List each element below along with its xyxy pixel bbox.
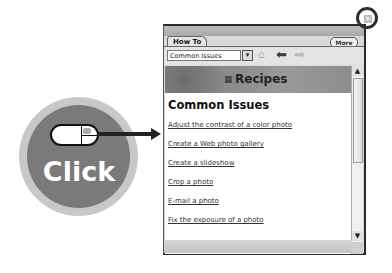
palette-status-bar (164, 240, 352, 253)
click-label: Click (36, 156, 122, 187)
mouse-left-button (83, 128, 91, 134)
banner-title: Recipes (235, 72, 287, 86)
content-area: ▦ Recipes Common Issues Adjust the contr… (165, 66, 352, 254)
list-item-link[interactable]: E-mail a photo (168, 197, 292, 216)
palette-toolbar: Common Issues ▾ ⌂ ⬅ ➡ (164, 47, 364, 65)
link-list: Adjust the contrast of a color photo Cre… (168, 121, 292, 235)
recipes-banner: ▦ Recipes (165, 66, 352, 93)
list-item-link[interactable]: Fix the exposure of a photo (168, 216, 292, 235)
mouse-button-divider (81, 135, 99, 136)
scroll-up-icon[interactable]: ▲ (352, 66, 363, 76)
scroll-thumb[interactable] (353, 78, 363, 163)
palette-title-bar[interactable] (164, 26, 364, 36)
list-item-link[interactable]: Adjust the contrast of a color photo (168, 121, 292, 140)
close-highlight-circle: ✕ (356, 7, 378, 29)
back-arrow-icon[interactable]: ⬅ (276, 48, 287, 62)
pointer-arrow-line (98, 132, 153, 136)
home-icon[interactable]: ⌂ (258, 49, 265, 61)
vertical-scrollbar[interactable]: ▲ ▼ (351, 66, 363, 254)
how-to-palette: How To More Common Issues ▾ ⌂ ⬅ ➡ ▦ Reci… (163, 24, 366, 255)
topic-select[interactable]: Common Issues (167, 50, 241, 61)
chevron-down-icon[interactable]: ▾ (242, 50, 253, 61)
scroll-down-icon[interactable]: ▼ (352, 231, 363, 241)
list-item-link[interactable]: Create a Web photo gallery (168, 140, 292, 159)
forward-arrow-icon[interactable]: ➡ (294, 48, 305, 62)
pointer-arrow-head (151, 128, 161, 140)
close-icon[interactable]: ✕ (364, 15, 372, 23)
list-item-link[interactable]: Crop a photo (168, 178, 292, 197)
recipes-icon: ▦ (224, 74, 234, 84)
resize-grip[interactable] (352, 242, 363, 254)
section-heading: Common Issues (168, 98, 269, 112)
list-item-link[interactable]: Create a slideshow (168, 159, 292, 178)
mouse-icon (50, 124, 99, 146)
